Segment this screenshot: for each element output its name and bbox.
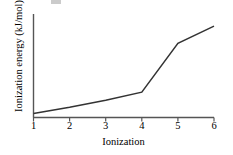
x-axis-tick-label-4: 4 <box>132 120 152 131</box>
x-axis-tick-label-5: 5 <box>168 120 188 131</box>
x-axis-label: Ionization <box>33 136 214 147</box>
x-axis-tick-label-3: 3 <box>96 120 116 131</box>
plot-area <box>0 0 233 155</box>
ionization-energy-series-line <box>34 26 215 113</box>
axis-lines <box>33 14 214 118</box>
x-axis-tick-label-2: 2 <box>60 120 80 131</box>
x-axis-tick-label-6: 6 <box>204 120 224 131</box>
x-axis-tick-label-1: 1 <box>24 120 44 131</box>
ionization-energy-chart-figure: Ionization energy (kJ/mol) 123456 Ioniza… <box>0 0 233 155</box>
